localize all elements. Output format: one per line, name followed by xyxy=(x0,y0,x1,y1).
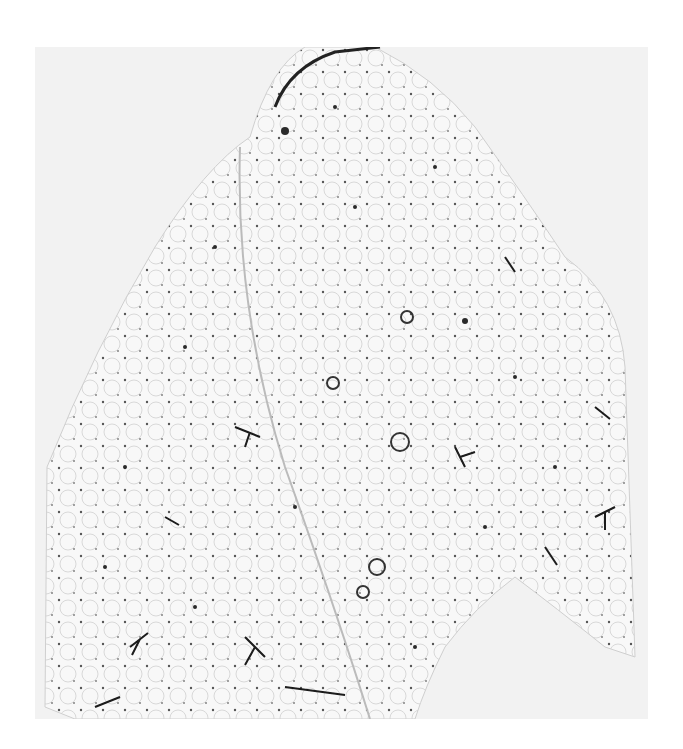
lung-section-image xyxy=(35,47,648,719)
figure-caption xyxy=(0,741,683,749)
micrograph-panel xyxy=(35,47,648,719)
